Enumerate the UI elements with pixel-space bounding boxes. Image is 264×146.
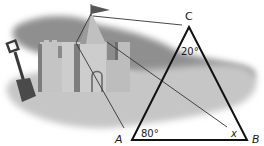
angle-label-C: 20° — [181, 46, 199, 57]
angle-label-B: x — [230, 128, 237, 139]
flag-icon — [91, 4, 110, 16]
vertex-label-C: C — [185, 10, 193, 23]
vertex-label-B: B — [252, 133, 260, 146]
vertex-label-A: A — [114, 133, 123, 146]
angle-label-A: 80° — [141, 128, 159, 139]
geometry-diagram: C A B 20° 80° x — [0, 0, 264, 146]
flag-to-C-line — [93, 16, 182, 25]
